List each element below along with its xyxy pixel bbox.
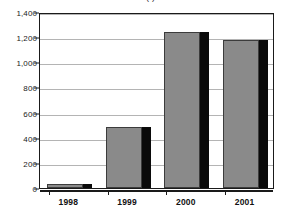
bar-body	[47, 184, 83, 188]
bar-1999[interactable]	[106, 14, 151, 188]
y-axis-tick-label: 400	[0, 134, 37, 143]
bar-shadow	[142, 127, 151, 188]
y-axis-tick-label: 200	[0, 159, 37, 168]
bar-1998[interactable]	[47, 14, 92, 188]
bar-shadow	[259, 40, 268, 188]
gridline	[40, 190, 273, 192]
x-axis-tick-label: 1998	[43, 197, 93, 207]
bar-shadow	[83, 184, 92, 188]
chart-title-remnant: ( )	[146, 0, 278, 4]
bar-shadow	[200, 32, 209, 188]
y-axis-tick-label: 1,000	[0, 59, 37, 68]
x-axis-tick-label: 2000	[161, 197, 211, 207]
bar-body	[223, 40, 259, 188]
y-axis-tick-label: 800	[0, 84, 37, 93]
x-axis-tick-label: 2001	[220, 197, 270, 207]
bar-body	[164, 32, 200, 188]
plot-inner	[40, 14, 273, 188]
x-axis-tick-label: 1999	[102, 197, 152, 207]
bar-2000[interactable]	[164, 14, 209, 188]
plot-area	[39, 13, 274, 189]
y-axis-tick-label: 1,400	[0, 9, 37, 18]
bar-2001[interactable]	[223, 14, 268, 188]
y-axis-tick-label: 600	[0, 109, 37, 118]
y-axis-tick-label: 0	[0, 185, 37, 194]
y-axis-tick-label: 1,200	[0, 34, 37, 43]
bar-body	[106, 127, 142, 188]
bar-chart-figure: ( ) 02004006008001,0001,2001,400 1998199…	[0, 0, 285, 216]
